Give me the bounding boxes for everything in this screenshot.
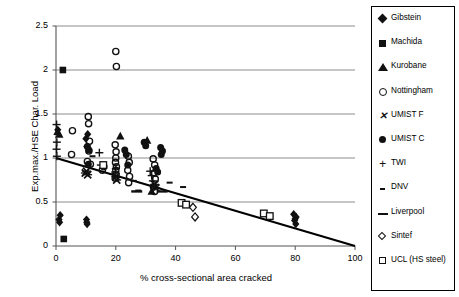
- legend-label: Liverpool: [391, 207, 424, 216]
- dash-long-icon: [376, 206, 390, 220]
- legend-label: UMIST F: [391, 110, 424, 119]
- legend-label: DNV: [391, 182, 408, 191]
- chart-plot-area: Exp.max./HSE Char. Load % cross-sectiona…: [0, 0, 360, 297]
- x-tick-label: 40: [161, 253, 191, 263]
- x-tick-label: 20: [101, 253, 131, 263]
- legend-item-machida[interactable]: Machida: [376, 35, 451, 59]
- legend-label: Nottingham: [391, 86, 433, 95]
- legend-item-umist-f[interactable]: ✕ UMIST F: [376, 108, 451, 132]
- diamond-filled-icon: [376, 12, 390, 26]
- triangle-filled-icon: [376, 60, 390, 74]
- scatter-chart-figure: Exp.max./HSE Char. Load % cross-sectiona…: [0, 0, 459, 297]
- circle-open-icon: [376, 85, 390, 99]
- legend-label: UMIST C: [391, 134, 425, 143]
- legend-item-ucl[interactable]: UCL (HS steel): [376, 253, 451, 277]
- y-tick-label: 1: [18, 152, 48, 162]
- legend-item-twi[interactable]: + TWI: [376, 156, 451, 180]
- legend-label: Sintef: [391, 231, 412, 240]
- legend-item-sintef[interactable]: Sintef: [376, 229, 451, 253]
- x-mark-icon: ✕: [376, 109, 390, 123]
- y-tick-label: 0: [18, 240, 48, 250]
- legend-label: Gibstein: [391, 13, 421, 22]
- y-tick-label: 2.5: [18, 20, 48, 30]
- series-ucl-hs-steel: [100, 162, 273, 220]
- x-tick-label: 80: [280, 253, 310, 263]
- legend-item-kurobane[interactable]: Kurobane: [376, 59, 451, 83]
- dash-short-icon: [376, 181, 390, 195]
- circle-filled-icon: [376, 133, 390, 147]
- x-axis-title: % cross-sectional area cracked: [56, 272, 356, 283]
- legend-item-nottingham[interactable]: Nottingham: [376, 84, 451, 108]
- y-tick-label: 2: [18, 64, 48, 74]
- legend-label: Kurobane: [391, 61, 427, 70]
- y-tick-label: 0.5: [18, 196, 48, 206]
- legend-label: Machida: [391, 37, 422, 46]
- x-tick-label: 0: [41, 253, 71, 263]
- legend-label: TWI: [391, 158, 406, 167]
- legend-label: UCL (HS steel): [391, 255, 446, 264]
- legend-item-dnv[interactable]: DNV: [376, 180, 451, 204]
- plus-mark-icon: +: [376, 157, 390, 171]
- series-sintef: [190, 203, 199, 221]
- y-tick-label: 1.5: [18, 108, 48, 118]
- x-tick-label: 100: [340, 253, 370, 263]
- legend-item-liverpool[interactable]: Liverpool: [376, 205, 451, 229]
- legend-item-umist-c[interactable]: UMIST C: [376, 132, 451, 156]
- chart-legend: Gibstein Machida Kurobane Nottingham ✕ U…: [371, 6, 455, 291]
- square-open-icon: [376, 254, 390, 268]
- diamond-open-icon: [376, 230, 390, 244]
- legend-item-gibstein[interactable]: Gibstein: [376, 11, 451, 35]
- square-filled-icon: [376, 36, 390, 50]
- x-tick-label: 60: [220, 253, 250, 263]
